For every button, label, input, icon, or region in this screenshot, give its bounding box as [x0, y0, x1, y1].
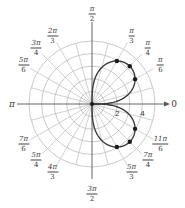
angle-label-11pi-6: 11π6 [153, 135, 169, 152]
angle-label-7pi-6: 7π6 [18, 135, 29, 152]
angle-label-4pi-3: 4π3 [47, 164, 58, 181]
pole-point [90, 102, 94, 106]
marked-point [133, 77, 137, 81]
grid-spoke [57, 43, 93, 104]
grid-spoke [31, 104, 92, 140]
grid-spoke [57, 104, 93, 165]
angle-label-0: 0 [171, 101, 177, 108]
angle-label-3pi-2: 3π2 [86, 186, 97, 203]
angle-label-5pi-4: 5π4 [31, 151, 42, 168]
grid-spoke [42, 54, 92, 104]
radial-label-2: 2 [115, 109, 119, 118]
angle-label-5pi-3: 5π3 [126, 164, 137, 181]
marked-point [115, 59, 119, 63]
angle-label-pi: π [9, 101, 15, 108]
axis-arrow-icon [164, 102, 170, 107]
angle-label-2pi-3: 2π3 [47, 27, 58, 44]
grid-spoke [31, 69, 92, 105]
angle-label-pi-2: π2 [89, 6, 96, 23]
angle-label-7pi-4: 7π4 [142, 151, 153, 168]
marked-point [128, 64, 132, 68]
angle-label-3pi-4: 3π4 [31, 40, 42, 57]
marked-point [133, 127, 137, 131]
polar-plot [0, 0, 185, 208]
angle-label-pi-3: π3 [128, 27, 135, 44]
angle-label-pi-6: π6 [157, 56, 164, 73]
angle-label-pi-4: π4 [145, 40, 152, 57]
marked-point [128, 140, 132, 144]
radial-label-4: 4 [140, 109, 144, 118]
grid-spoke [42, 104, 92, 154]
angle-label-5pi-6: 5π6 [18, 56, 29, 73]
marked-point [115, 145, 119, 149]
